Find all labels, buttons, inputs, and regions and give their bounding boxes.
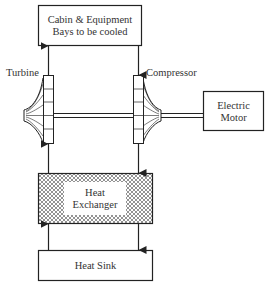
heat-exchanger-label: Heat Exchanger: [64, 182, 126, 215]
compressor-label: Compressor: [146, 67, 206, 79]
turbine-icon: [24, 76, 54, 144]
shaft-turbine-compressor: [53, 114, 133, 118]
motor-label: Electric Motor: [203, 92, 264, 131]
shaft-compressor-motor: [161, 114, 203, 118]
turbine-label: Turbine: [6, 67, 44, 79]
heat-sink-label: Heat Sink: [38, 251, 153, 281]
cabin-label: Cabin & Equipment Bays to be cooled: [38, 7, 142, 45]
heat-exchanger-label-line1: Heat: [85, 187, 105, 199]
cabin-label-line1: Cabin & Equipment: [48, 14, 133, 26]
motor-label-line1: Electric: [217, 100, 250, 112]
motor-label-line2: Motor: [220, 112, 246, 124]
compressor-icon: [134, 76, 162, 144]
cabin-label-line2: Bays to be cooled: [53, 26, 128, 38]
heat-exchanger-label-line2: Exchanger: [73, 199, 118, 211]
